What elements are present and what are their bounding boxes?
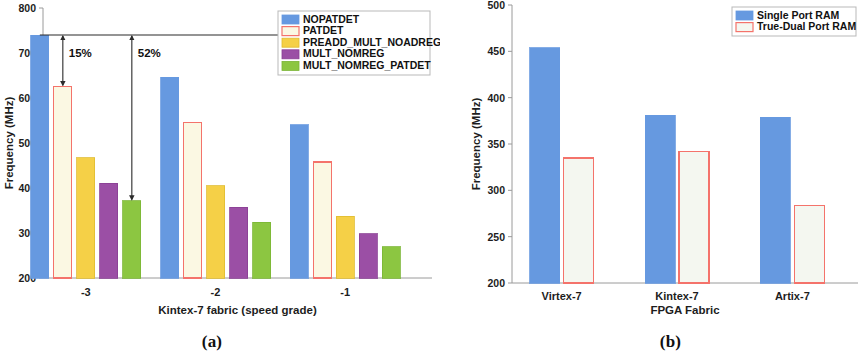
legend-label-preadd-mult-noadreg: PREADD_MULT_NOADREG xyxy=(303,36,440,48)
y-axis-title: Frequency (MHz) xyxy=(3,97,15,190)
y-tick-label: 250 xyxy=(487,231,505,243)
bar-preadd-mult-noadreg--3 xyxy=(77,158,95,278)
annotation-label-52pct: 52% xyxy=(138,47,161,59)
bar-mult-nomreg--1 xyxy=(359,234,377,278)
bar-patdet--1 xyxy=(313,162,331,278)
bar-nopatdet--3 xyxy=(31,35,49,278)
bar-mult-nomreg-patdet--2 xyxy=(253,222,271,278)
legend-label-patdet: PATDET xyxy=(303,24,344,36)
bar-mult-nomreg-patdet--1 xyxy=(382,247,400,279)
bar-mult-nomreg--3 xyxy=(100,183,118,278)
x-category-label: Kintex-7 xyxy=(655,290,698,302)
chart-legend: Single Port RAMTrue-Dual Port RAM xyxy=(732,7,856,36)
legend-swatch-mult-nomreg-patdet xyxy=(282,61,299,70)
y-tick-label: 400 xyxy=(487,92,505,104)
y-tick-label: 300 xyxy=(487,184,505,196)
y-tick-label: 800 xyxy=(18,2,36,14)
bar-true-dual-port-ram-Artix-7 xyxy=(794,205,824,283)
bar-preadd-mult-noadreg--1 xyxy=(336,216,354,278)
x-category-label: Artix-7 xyxy=(775,290,810,302)
figure-row: 200300400500600700800Frequency (MHz)-3-2… xyxy=(0,0,861,360)
subfigure-b: 200250300350400450500Frequency (MHz)Virt… xyxy=(440,0,861,360)
legend-swatch-mult-nomreg xyxy=(282,50,299,59)
x-category-label: -1 xyxy=(340,286,350,298)
x-axis-title: FPGA Fabric xyxy=(650,304,720,316)
annotation-label-15pct: 15% xyxy=(69,47,92,59)
legend-label-nopatdet: NOPATDET xyxy=(303,13,360,25)
x-axis-title: Kintex-7 fabric (speed grade) xyxy=(158,304,317,316)
bar-mult-nomreg-patdet--3 xyxy=(123,201,141,278)
bar-patdet--3 xyxy=(54,86,72,278)
legend-label-mult-nomreg-patdet: MULT_NOMREG_PATDET xyxy=(303,59,431,71)
bar-true-dual-port-ram-Kintex-7 xyxy=(679,151,709,283)
legend-label-single-port-ram: Single Port RAM xyxy=(757,9,840,21)
x-category-label: -3 xyxy=(81,286,91,298)
chart-a-plot: 200300400500600700800Frequency (MHz)-3-2… xyxy=(0,0,440,320)
subfigure-a-caption: (a) xyxy=(0,332,432,352)
bar-patdet--2 xyxy=(184,123,202,278)
bar-nopatdet--2 xyxy=(161,77,179,278)
bar-true-dual-port-ram-Virtex-7 xyxy=(564,158,594,283)
legend-swatch-single-port-ram xyxy=(736,11,753,20)
chart-b-plot: 200250300350400450500Frequency (MHz)Virt… xyxy=(440,0,861,320)
legend-swatch-patdet xyxy=(282,27,299,36)
legend-label-true-dual-port-ram: True-Dual Port RAM xyxy=(757,20,856,32)
y-tick-label: 450 xyxy=(487,45,505,57)
subfigure-a: 200300400500600700800Frequency (MHz)-3-2… xyxy=(0,0,440,360)
bar-single-port-ram-Artix-7 xyxy=(760,117,790,283)
bar-mult-nomreg--2 xyxy=(230,207,248,278)
x-category-label: -2 xyxy=(211,286,221,298)
chart-legend: NOPATDETPATDETPREADD_MULT_NOADREGMULT_NO… xyxy=(278,11,440,75)
legend-label-mult-nomreg: MULT_NOMREG xyxy=(303,47,384,59)
y-axis-title: Frequency (MHz) xyxy=(470,98,482,191)
bar-single-port-ram-Kintex-7 xyxy=(645,115,675,283)
y-tick-label: 350 xyxy=(487,138,505,150)
legend-swatch-nopatdet xyxy=(282,15,299,24)
bar-single-port-ram-Virtex-7 xyxy=(530,48,560,283)
legend-swatch-preadd-mult-noadreg xyxy=(282,38,299,47)
bar-preadd-mult-noadreg--2 xyxy=(207,186,225,278)
y-tick-label: 200 xyxy=(487,277,505,289)
y-tick-label: 500 xyxy=(487,0,505,11)
bar-nopatdet--1 xyxy=(290,125,308,278)
subfigure-b-caption: (b) xyxy=(460,332,861,352)
x-category-label: Virtex-7 xyxy=(542,290,582,302)
legend-swatch-true-dual-port-ram xyxy=(736,23,753,32)
